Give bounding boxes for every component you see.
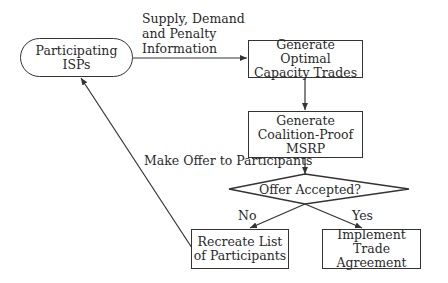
- node-recreate-participants: Recreate List of Participants: [191, 229, 289, 269]
- node-decision-label: Offer Accepted?: [259, 182, 361, 197]
- node-generate-optimal-trades: Generate Optimal Capacity Trades: [248, 40, 363, 78]
- node-participating-isps: Participating ISPs: [20, 38, 133, 77]
- edge-label-yes: Yes: [352, 208, 373, 223]
- edge-label-no: No: [238, 208, 256, 223]
- edge-no: [250, 204, 305, 228]
- node-implement-agreement: Implement Trade Agreement: [322, 229, 421, 269]
- node-participating-isps-label: Participating ISPs: [21, 44, 132, 72]
- node-generate-msrp: Generate Coalition-Proof MSRP: [248, 111, 363, 158]
- edge-label-supply-info: Supply, Demand and Penalty Information: [142, 11, 245, 56]
